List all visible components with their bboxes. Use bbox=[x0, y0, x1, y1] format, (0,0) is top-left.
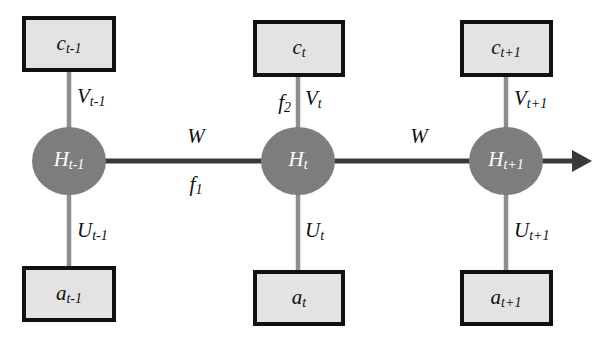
diagram-canvas: ct-1 Ht-1 at-1 Vt-1 Ut-1 ct bbox=[0, 0, 600, 341]
edge-label-U-slice-0: Ut-1 bbox=[77, 218, 108, 243]
function-label-f1: f1 bbox=[190, 172, 203, 197]
arrow-head-icon bbox=[572, 150, 592, 172]
time-slice-t: ct Ht at Vt f2 Ut bbox=[255, 22, 343, 324]
edge-label-V-slice-1: Vt bbox=[305, 86, 323, 111]
edge-label-V-slice-2: Vt+1 bbox=[514, 86, 547, 111]
time-slice-t-minus-1: ct-1 Ht-1 at-1 Vt-1 Ut-1 bbox=[24, 18, 114, 320]
recurrent-edge-label-W-1: W bbox=[187, 124, 207, 148]
edge-label-V-slice-0: Vt-1 bbox=[77, 84, 105, 109]
edge-label-U-slice-1: Ut bbox=[305, 218, 325, 243]
function-label-f2: f2 bbox=[278, 90, 291, 115]
time-slice-t-plus-1: ct+1 Ht+1 at+1 Vt+1 Ut+1 bbox=[462, 22, 551, 324]
rnn-unrolled-diagram: ct-1 Ht-1 at-1 Vt-1 Ut-1 ct bbox=[0, 0, 600, 341]
recurrent-edge-label-W-2: W bbox=[410, 124, 430, 148]
edge-label-U-slice-2: Ut+1 bbox=[514, 218, 550, 243]
